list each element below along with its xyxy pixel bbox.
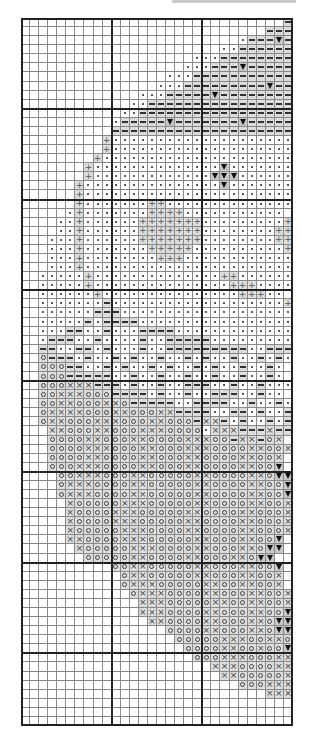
dash-symbol [230,109,239,118]
cross-symbol [66,517,75,526]
dash-symbol [112,318,121,327]
circle-symbol [175,490,184,499]
empty-cell [21,599,30,608]
empty-cell [121,18,130,27]
circle-symbol [266,535,275,544]
empty-cell [94,635,103,644]
dot-symbol [175,163,184,172]
dot-symbol [284,136,293,145]
circle-symbol [148,563,157,572]
circle-symbol [220,581,229,590]
dot-symbol [130,263,139,272]
empty-cell [30,436,39,445]
circle-symbol [112,526,121,535]
dot-symbol [248,236,257,245]
empty-cell [248,27,257,36]
dash-symbol [284,417,293,426]
empty-cell [66,617,75,626]
empty-cell [66,544,75,553]
empty-cell [48,544,57,553]
dot-symbol [94,327,103,336]
dash-symbol [239,408,248,417]
circle-symbol [202,526,211,535]
dash-symbol [202,381,211,390]
cross-symbol [211,608,220,617]
empty-cell [66,172,75,181]
empty-cell [57,626,66,635]
dot-symbol [121,109,130,118]
dot-symbol [211,181,220,190]
circle-symbol [94,408,103,417]
empty-cell [21,572,30,581]
empty-cell [39,608,48,617]
empty-cell [139,54,148,63]
dot-symbol [284,272,293,281]
dot-symbol [121,354,130,363]
circle-symbol [266,490,275,499]
cross-symbol [157,617,166,626]
dot-symbol [230,200,239,209]
dot-symbol [220,354,229,363]
empty-cell [30,82,39,91]
circle-symbol [257,508,266,517]
empty-cell [148,72,157,81]
empty-cell [130,662,139,671]
dot-symbol [157,318,166,327]
empty-cell [139,626,148,635]
circle-symbol [75,445,84,454]
dot-symbol [211,318,220,327]
empty-cell [220,681,229,690]
empty-cell [48,699,57,708]
empty-cell [30,526,39,535]
empty-cell [21,563,30,572]
circle-symbol [211,508,220,517]
cross-symbol [248,626,257,635]
empty-cell [30,245,39,254]
cross-symbol [248,526,257,535]
dot-symbol [284,154,293,163]
empty-cell [48,653,57,662]
empty-cell [75,708,84,717]
circle-symbol [112,563,121,572]
circle-symbol [266,499,275,508]
circle-symbol [94,517,103,526]
dash-symbol [248,426,257,435]
empty-cell [39,635,48,644]
triangle-symbol [211,91,220,100]
cross-symbol [248,599,257,608]
dot-symbol [94,363,103,372]
empty-cell [275,708,284,717]
empty-cell [230,27,239,36]
cross-symbol [230,635,239,644]
circle-symbol [266,517,275,526]
cross-symbol [139,436,148,445]
empty-cell [30,136,39,145]
dot-symbol [284,263,293,272]
empty-cell [148,681,157,690]
dash-symbol [284,72,293,81]
circle-symbol [57,381,66,390]
triangle-symbol [275,617,284,626]
empty-cell [266,708,275,717]
circle-symbol [266,672,275,681]
cross-symbol [202,499,211,508]
dot-symbol [121,254,130,263]
empty-cell [21,436,30,445]
dot-symbol [130,227,139,236]
dot-symbol [257,245,266,254]
dot-symbol [121,272,130,281]
dash-symbol [248,45,257,54]
empty-cell [112,91,121,100]
empty-cell [48,517,57,526]
cross-symbol [248,490,257,499]
dot-symbol [166,290,175,299]
empty-cell [202,717,211,726]
cross-symbol [130,508,139,517]
cross-symbol [139,526,148,535]
circle-symbol [184,581,193,590]
dot-symbol [184,172,193,181]
dot-symbol [220,136,229,145]
empty-cell [48,708,57,717]
dot-symbol [184,399,193,408]
cross-symbol [84,454,93,463]
